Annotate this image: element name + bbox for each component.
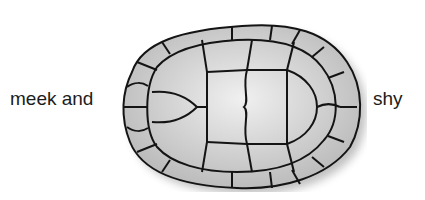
right-caption: shy	[373, 89, 403, 108]
shell-outline	[123, 25, 360, 188]
turtle-shell-illustration	[112, 12, 367, 192]
left-caption: meek and	[10, 89, 93, 108]
